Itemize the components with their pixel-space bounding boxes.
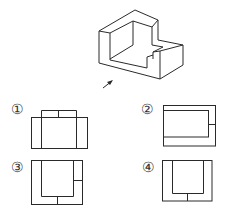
option-4-label[interactable]: ④ bbox=[142, 160, 155, 174]
view-direction-arrow-icon bbox=[103, 80, 113, 88]
diagram-canvas bbox=[0, 0, 231, 215]
option-1-label[interactable]: ① bbox=[11, 102, 24, 116]
option-3-view bbox=[32, 161, 83, 205]
option-1-view bbox=[32, 111, 88, 149]
isometric-object bbox=[99, 10, 183, 79]
option-2-view bbox=[164, 106, 216, 147]
option-2-label[interactable]: ② bbox=[141, 102, 154, 116]
option-3-label[interactable]: ③ bbox=[11, 160, 24, 174]
option-4-view bbox=[163, 161, 213, 202]
